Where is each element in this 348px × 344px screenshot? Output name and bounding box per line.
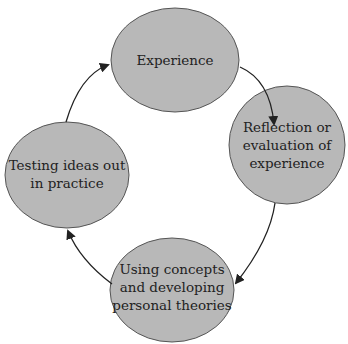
node-testing-line-2: in practice bbox=[30, 174, 103, 192]
node-reflection: Reflection or evaluation of experience bbox=[229, 110, 345, 180]
node-reflection-line-1: Reflection or bbox=[243, 118, 331, 136]
node-reflection-line-2: evaluation of bbox=[243, 136, 332, 154]
arrow-testing-to-experience bbox=[66, 65, 108, 122]
node-testing-line-1: Testing ideas out bbox=[9, 156, 126, 174]
node-concepts-line-1: Using concepts bbox=[119, 260, 224, 278]
arrow-concepts-to-testing bbox=[68, 231, 112, 284]
node-reflection-line-3: experience bbox=[249, 154, 324, 172]
node-concepts-line-3: personal theories bbox=[112, 296, 231, 314]
arrow-reflection-to-concepts bbox=[236, 203, 275, 283]
node-experience: Experience bbox=[111, 40, 239, 80]
node-testing: Testing ideas out in practice bbox=[5, 152, 129, 196]
node-concepts-line-2: and developing bbox=[120, 278, 225, 296]
node-concepts: Using concepts and developing personal t… bbox=[110, 257, 234, 317]
node-experience-line-1: Experience bbox=[136, 51, 213, 69]
